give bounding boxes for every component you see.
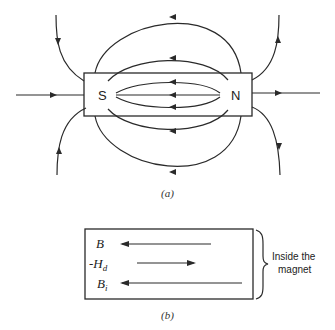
arrow-top-left [55, 38, 61, 45]
arrow-outer-lower [169, 169, 176, 175]
vector-hd-arrowhead [187, 260, 196, 266]
caption-a: (a) [161, 187, 174, 200]
label-bi: Bi [97, 276, 108, 293]
figure-a: S N (a) [16, 14, 320, 200]
label-b: B [96, 236, 104, 251]
arrow-top-right [275, 36, 281, 43]
arrow-right-axial [275, 90, 282, 96]
brace-label-line1: Inside the [272, 251, 316, 262]
caption-b: (b) [161, 309, 174, 322]
field-line-inner-upper [116, 82, 220, 93]
vector-bi-arrowhead [120, 280, 129, 286]
arrow-bottom-left [56, 147, 62, 154]
label-hd-subscript: d [103, 263, 108, 273]
arrow-left-axial [50, 92, 57, 98]
right-brace [256, 230, 268, 299]
figure-b: B -Hd Bi Inside the magnet (b) [85, 229, 316, 322]
south-pole-label: S [98, 88, 107, 103]
field-line-bottom-left [57, 108, 86, 175]
magnet-interior-box [85, 229, 253, 299]
field-line-inner-lower [116, 97, 220, 108]
field-line-top-left [56, 15, 84, 81]
label-hd: -Hd [89, 256, 108, 273]
arrow-outer-upper [169, 14, 176, 20]
field-line-top-right [252, 15, 279, 80]
field-line-outer-upper [95, 23, 241, 73]
label-bi-subscript: i [105, 283, 108, 293]
north-pole-label: N [231, 88, 240, 103]
magnet-field-diagram: S N (a) [0, 0, 335, 330]
field-line-outer-lower [95, 116, 241, 166]
label-hd-symbol: H [92, 256, 103, 271]
label-bi-symbol: B [97, 276, 105, 291]
vector-b-arrowhead [120, 241, 129, 247]
arrow-inner-center [169, 92, 176, 98]
arrow-inner-upper [169, 79, 176, 85]
label-b-symbol: B [96, 236, 104, 251]
arrow-inner-lower [169, 104, 176, 110]
brace-label-line2: magnet [278, 264, 312, 275]
field-line-bottom-right [252, 107, 280, 175]
field-line-mid-upper [108, 61, 228, 81]
field-line-mid-lower [108, 109, 228, 129]
